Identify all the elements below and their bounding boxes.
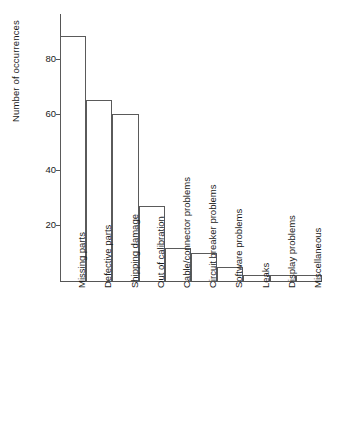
x-category-label-4: Cable/connector problems	[182, 177, 192, 288]
x-category-label-7: Leaks	[261, 263, 271, 288]
x-category-label-6: Software problems	[234, 209, 244, 288]
x-category-label-3: Out of calibration	[156, 216, 166, 288]
x-category-label-5: Circuit breaker problems	[208, 185, 218, 288]
pareto-bar-chart: Number of occurrences 20406080 Missing p…	[0, 0, 338, 431]
x-category-label-1: Defective parts	[103, 225, 113, 288]
x-category-label-9: Miscellaneous	[313, 228, 323, 288]
x-category-label-0: Missing parts	[77, 232, 87, 288]
x-category-label-8: Display problems	[287, 215, 297, 288]
x-category-label-2: Shipping damage	[130, 214, 140, 288]
